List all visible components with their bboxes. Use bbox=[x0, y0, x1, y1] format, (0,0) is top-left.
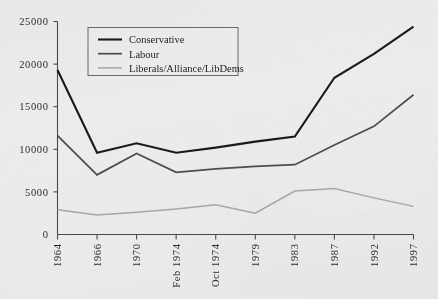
x-tick-label: 1983 bbox=[289, 244, 300, 267]
legend-label-2: Labour bbox=[129, 49, 160, 60]
x-tick-label: 1970 bbox=[131, 244, 142, 267]
y-tick-label: 5000 bbox=[25, 187, 48, 198]
legend-label-1: Conservative bbox=[129, 34, 185, 45]
y-axis-group: 0500010000150002000025000 bbox=[19, 16, 57, 240]
y-tick-label: 15000 bbox=[19, 101, 48, 112]
y-tick-labels: 0500010000150002000025000 bbox=[19, 16, 48, 240]
series-line-labour bbox=[58, 95, 414, 175]
line-chart: 0500010000150002000025000 196419661970Fe… bbox=[0, 0, 438, 299]
y-tick-label: 20000 bbox=[19, 59, 48, 70]
y-tick-label: 0 bbox=[43, 229, 49, 240]
legend-label-3: Liberals/Alliance/LibDems bbox=[129, 63, 244, 74]
series-line-liberals-alliance-libdems bbox=[58, 188, 414, 214]
x-tick-labels: 196419661970Feb 1974Oct 1974197919831987… bbox=[52, 243, 419, 287]
chart-container: 0500010000150002000025000 196419661970Fe… bbox=[0, 0, 438, 299]
y-tick-label: 10000 bbox=[19, 144, 48, 155]
x-tick-label: 1964 bbox=[52, 243, 63, 267]
x-tick-label: 1966 bbox=[92, 244, 103, 267]
chart-legend: ConservativeLabourLiberals/Alliance/LibD… bbox=[88, 28, 244, 76]
x-tick-marks bbox=[58, 235, 414, 240]
y-tick-marks bbox=[54, 22, 58, 192]
x-tick-label: 1997 bbox=[408, 244, 419, 267]
x-tick-label: 1979 bbox=[250, 244, 261, 267]
x-axis-group: 196419661970Feb 1974Oct 1974197919831987… bbox=[52, 235, 419, 288]
x-tick-label: Oct 1974 bbox=[210, 243, 221, 287]
y-tick-label: 25000 bbox=[19, 16, 48, 27]
x-tick-label: Feb 1974 bbox=[171, 243, 182, 287]
x-tick-label: 1992 bbox=[369, 244, 380, 267]
x-tick-label: 1987 bbox=[329, 244, 340, 267]
